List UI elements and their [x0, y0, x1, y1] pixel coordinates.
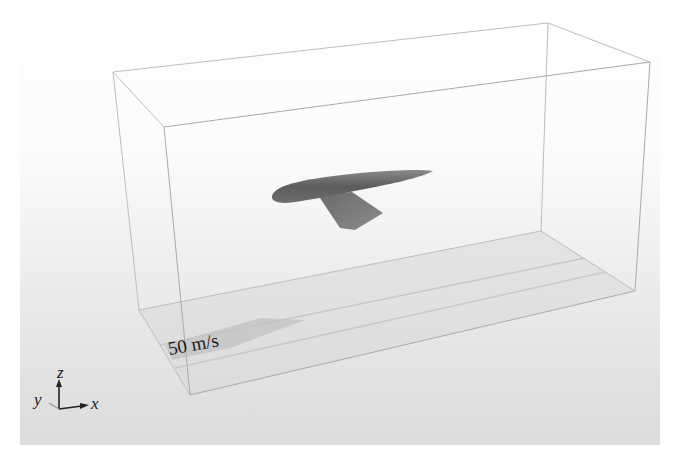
y-axis-label: y	[34, 390, 42, 410]
figure-canvas: 50 m/s z y x	[0, 0, 689, 460]
x-axis-label: x	[91, 394, 99, 414]
scene-svg	[0, 0, 689, 460]
z-axis-label: z	[57, 363, 64, 383]
